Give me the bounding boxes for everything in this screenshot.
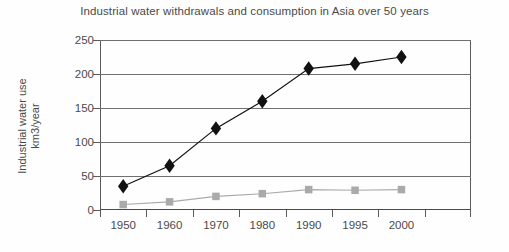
chart-container: Industrial water withdrawals and consump… [0,0,509,252]
data-point-square [212,193,220,201]
plot-area [100,40,471,210]
y-axis-tick-label: 100 [75,136,94,148]
x-axis-tick [193,210,194,217]
x-axis-ticks [100,210,471,217]
x-axis-tick [332,210,333,217]
x-axis-tick-label: 1990 [296,219,322,231]
data-point-diamond [118,179,128,193]
series-2 [119,186,405,208]
data-point-square [398,186,406,194]
x-axis-tick-label: 1980 [250,219,276,231]
data-point-square [259,190,267,198]
data-point-diamond [164,159,174,173]
y-axis-title-line2: km3/year [29,40,42,212]
y-axis-tick-label: 250 [75,34,94,46]
x-axis-tick-label: 1960 [157,219,183,231]
x-axis-tick-label: 2000 [389,219,415,231]
x-axis-tick [146,210,147,217]
data-point-diamond [211,121,221,135]
y-axis-tick-labels: 250200150100500 [58,40,94,210]
data-point-diamond [257,94,267,108]
data-point-diamond [350,57,360,71]
x-axis-tick-labels: 1950196019701980199019952000 [100,219,471,239]
data-point-square [119,201,127,209]
y-axis-title: Industrial water use km3/year [12,40,46,212]
y-axis-tick-label: 150 [75,102,94,114]
x-axis-tick-label: 1950 [110,219,136,231]
x-axis-tick [470,210,471,217]
data-point-diamond [303,61,313,75]
x-axis-tick [378,210,379,217]
x-axis-tick-label: 1995 [342,219,368,231]
y-axis-title-line1: Industrial water use [16,40,29,212]
data-point-square [351,187,359,195]
data-series-layer [100,40,471,210]
x-axis-tick [239,210,240,217]
data-point-diamond [396,50,406,64]
x-axis-tick [100,210,101,217]
data-point-square [166,198,174,206]
y-axis-tick-label: 200 [75,68,94,80]
x-axis-tick-label: 1970 [203,219,229,231]
series-line [123,57,401,186]
chart-title: Industrial water withdrawals and consump… [0,5,509,17]
x-axis-tick [286,210,287,217]
series-1 [118,50,407,194]
data-point-square [305,186,313,194]
x-axis-tick [425,210,426,217]
